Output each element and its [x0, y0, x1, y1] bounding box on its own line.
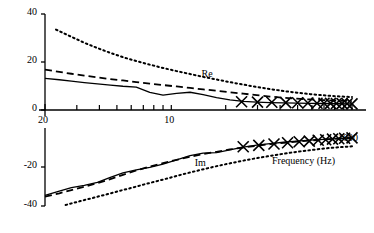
ytick-label-m40: -40 — [0, 198, 37, 209]
ytick-label-m20: -20 — [0, 159, 37, 170]
ytick-label-20: 20 — [0, 54, 37, 65]
xtick-label-20: 20 — [38, 114, 48, 125]
chart-plot-area — [0, 0, 374, 233]
ytick-label-0: 0 — [0, 102, 37, 113]
xtick-label-1000: 1000 — [338, 132, 358, 143]
ytick-label-40: 40 — [0, 6, 37, 17]
xtick-label-10: 10 — [164, 114, 174, 125]
impedance-chart-figure: Normalised impedance 40 20 0 -20 -40 20 … — [0, 0, 374, 233]
series-label-im: Im — [195, 157, 206, 168]
x-axis-title: Frequency (Hz) — [272, 155, 335, 166]
series-label-re: Re — [202, 68, 213, 79]
curves-group — [45, 30, 352, 205]
markers-group — [236, 96, 357, 152]
axes-group — [39, 14, 366, 206]
